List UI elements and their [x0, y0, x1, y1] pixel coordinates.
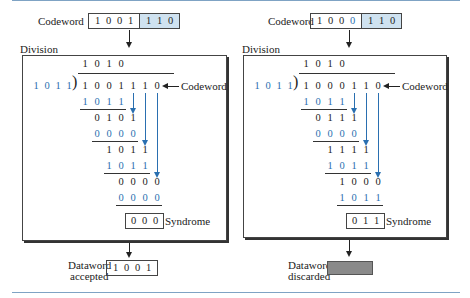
bring-down-arrow-icon — [366, 93, 367, 141]
step-digit: 1 — [79, 96, 91, 108]
subtract-line — [313, 141, 359, 142]
down-arrow-icon — [349, 30, 350, 43]
subtract-line — [325, 173, 371, 174]
syndrome-label: Syndrome — [165, 215, 210, 227]
step-digit: 0 — [115, 128, 127, 140]
step-digit: 0 — [103, 128, 115, 140]
quotient-digit: 1 — [103, 58, 115, 70]
step-digit: 0 — [348, 176, 360, 188]
step-digit: 1 — [348, 160, 360, 172]
down-arrow-icon — [129, 243, 130, 253]
step-digit: 1 — [324, 112, 336, 124]
dataword-result: 1 0 0 1 — [106, 260, 158, 276]
error-bit: 0 — [347, 14, 358, 28]
quotient-digit: 1 — [79, 58, 91, 70]
bottom-rule — [12, 292, 460, 293]
step-digit: 0 — [151, 192, 163, 204]
result-label: discarded — [288, 270, 330, 282]
step-digit: 0 — [115, 176, 127, 188]
dividend-digit: 0 — [336, 80, 348, 92]
top-rule — [12, 0, 460, 1]
dividend-label: Codeword — [181, 80, 227, 92]
step-digit: 1 — [336, 112, 348, 124]
division-label: Division — [20, 43, 58, 55]
step-digit: 0 — [139, 192, 151, 204]
dividend-label: Codeword — [402, 80, 448, 92]
subtract-line — [80, 109, 126, 110]
discarded-dataword-box — [327, 261, 373, 275]
step-digit: 0 — [312, 128, 324, 140]
subtract-line — [301, 109, 347, 110]
syndrome-label: Syndrome — [386, 215, 431, 227]
step-digit: 1 — [103, 160, 115, 172]
step-digit: 1 — [139, 160, 151, 172]
step-digit: 0 — [115, 144, 127, 156]
quotient-digit: 0 — [115, 58, 127, 70]
step-digit: 0 — [336, 160, 348, 172]
step-digit: 0 — [312, 96, 324, 108]
subtract-line — [104, 173, 150, 174]
left-arrow-icon — [167, 86, 179, 87]
dividend-digit: 1 — [348, 80, 360, 92]
checkbits-segment: 1 1 0 — [361, 14, 401, 28]
dividend-digit: 0 — [103, 80, 115, 92]
left-arrow-icon — [388, 86, 400, 87]
bring-down-arrow-icon — [145, 93, 146, 141]
division-bar — [299, 73, 395, 74]
step-digit: 0 — [312, 112, 324, 124]
dividend-digit: 0 — [324, 80, 336, 92]
checkbits-segment: 1 1 0 — [139, 14, 179, 28]
divisor-digit: 1 — [63, 80, 75, 92]
dividend-digit: 1 — [300, 80, 312, 92]
dividend-digit: 0 — [312, 80, 324, 92]
step-digit: 1 — [127, 144, 139, 156]
step-digit: 0 — [336, 128, 348, 140]
down-arrow-icon — [349, 240, 350, 252]
step-digit: 0 — [139, 176, 151, 188]
step-digit: 0 — [127, 128, 139, 140]
step-digit: 0 — [360, 176, 372, 188]
step-digit: 0 — [324, 128, 336, 140]
bring-down-arrow-icon — [133, 93, 134, 109]
step-digit: 0 — [115, 112, 127, 124]
quotient-digit: 0 — [91, 58, 103, 70]
codeword-label: Codeword — [268, 15, 314, 27]
syndrome-box: 0 1 1 — [346, 213, 385, 229]
step-digit: 0 — [127, 176, 139, 188]
dividend-digit: 1 — [139, 80, 151, 92]
division-label: Division — [242, 43, 280, 55]
step-digit: 0 — [91, 112, 103, 124]
step-digit: 1 — [348, 144, 360, 156]
dividend-digit: 1 — [79, 80, 91, 92]
dividend-digit: 1 — [360, 80, 372, 92]
codeword-label: Codeword — [38, 15, 84, 27]
step-digit: 1 — [336, 144, 348, 156]
result-label: accepted — [70, 270, 108, 282]
step-digit: 1 — [336, 176, 348, 188]
step-digit: 0 — [348, 128, 360, 140]
step-digit: 0 — [115, 160, 127, 172]
step-digit: 0 — [115, 192, 127, 204]
dataword-segment: 1 0 0 0 — [311, 14, 361, 28]
bring-down-arrow-icon — [354, 93, 355, 109]
dataword-segment: 1 0 0 1 — [89, 14, 139, 28]
step-digit: 1 — [115, 96, 127, 108]
step-digit: 1 — [372, 192, 384, 204]
quotient-digit: 1 — [300, 58, 312, 70]
dividend-digit: 0 — [91, 80, 103, 92]
step-digit: 1 — [127, 160, 139, 172]
step-digit: 1 — [360, 192, 372, 204]
divisor-digit: 1 — [284, 80, 296, 92]
subtract-line — [337, 205, 383, 206]
dividend-digit: 1 — [115, 80, 127, 92]
codeword-bits: 1 0 0 0 1 1 0 — [310, 13, 402, 29]
step-digit: 1 — [360, 160, 372, 172]
dividend-digit: 1 — [127, 80, 139, 92]
step-digit: 0 — [91, 96, 103, 108]
step-digit: 1 — [324, 160, 336, 172]
step-digit: 0 — [91, 128, 103, 140]
step-digit: 1 — [336, 192, 348, 204]
syndrome-box: 0 0 0 — [125, 213, 164, 229]
step-digit: 1 — [300, 96, 312, 108]
quotient-digit: 1 — [324, 58, 336, 70]
